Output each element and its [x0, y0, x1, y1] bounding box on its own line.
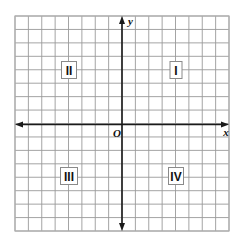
y-axis-up-arrow-icon	[119, 16, 125, 24]
quadrant-label-ii: II	[66, 64, 73, 78]
y-axis-label: y	[126, 15, 133, 27]
quadrant-label-iii: III	[64, 170, 74, 184]
labels: xyOIIIIIIIV	[61, 15, 230, 185]
x-axis-left-arrow-icon	[15, 122, 23, 128]
quadrant-label-i: I	[174, 64, 177, 78]
quadrant-label-iv: IV	[170, 170, 181, 184]
origin-label: O	[113, 127, 121, 139]
y-axis-down-arrow-icon	[119, 223, 125, 231]
coordinate-plane: xyOIIIIIIIV	[0, 0, 244, 246]
x-axis-label: x	[222, 126, 229, 138]
